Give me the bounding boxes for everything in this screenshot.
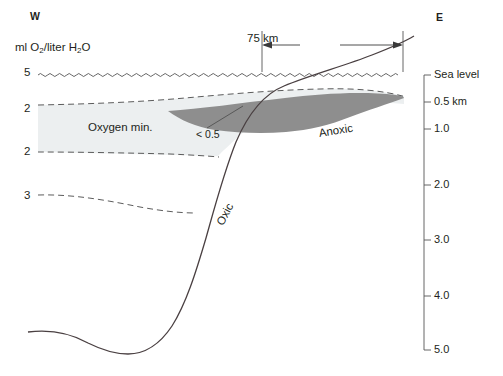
depth-tick-label-0-5: 0.5 km (434, 96, 467, 107)
cross-section-graphic (0, 0, 503, 376)
contour-value-label-5: 5 (24, 67, 30, 79)
axis-label-mid: /liter H (44, 41, 77, 53)
sea-surface-wavy-line (38, 74, 398, 77)
low-oxygen-value-label: < 0.5 (196, 129, 220, 140)
oxygen-minimum-zone-label: Oxygen min. (88, 122, 153, 134)
depth-tick-label-5-0: 5.0 (434, 344, 449, 355)
axis-label-tail: O (81, 41, 90, 53)
oxygen-concentration-axis-label: ml O2/liter H2O (15, 42, 90, 55)
depth-tick-label-sea-level: Sea level (434, 69, 479, 80)
axis-label-lead: ml O (15, 41, 39, 53)
west-direction-label: W (30, 11, 40, 22)
contour-value-label-3: 3 (24, 190, 30, 202)
contour-value-label-2-upper: 2 (24, 103, 30, 115)
depth-tick-label-4-0: 4.0 (434, 290, 449, 301)
scale-bar-label: 75 km (247, 33, 278, 45)
east-direction-label: E (436, 12, 443, 23)
depth-tick-label-3-0: 3.0 (434, 234, 449, 245)
seafloor-profile (28, 36, 414, 354)
ocean-oxygen-cross-section-figure: W E ml O2/liter H2O 5 2 2 3 Oxygen min. … (0, 0, 503, 376)
contour-value-label-2-lower: 2 (24, 146, 30, 158)
contour-line-3 (38, 195, 196, 213)
depth-tick-label-1-0: 1.0 (434, 123, 449, 134)
depth-axis (424, 75, 431, 350)
depth-tick-label-2-0: 2.0 (434, 179, 449, 190)
